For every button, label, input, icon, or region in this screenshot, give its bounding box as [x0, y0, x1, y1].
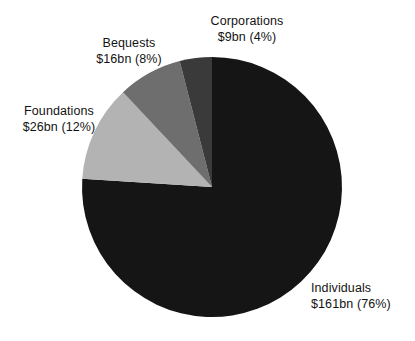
pie-label-bequests-name: Bequests	[74, 36, 184, 52]
pie-label-individuals-name: Individuals	[311, 281, 415, 297]
pie-slice-group	[82, 57, 342, 317]
pie-label-bequests: Bequests $16bn (8%)	[74, 36, 184, 67]
pie-label-foundations: Foundations $26bn (12%)	[4, 104, 114, 135]
pie-label-foundations-name: Foundations	[4, 104, 114, 120]
pie-label-foundations-value: $26bn (12%)	[4, 120, 114, 136]
pie-label-corporations: Corporations $9bn (4%)	[187, 14, 307, 45]
pie-label-corporations-value: $9bn (4%)	[187, 30, 307, 46]
pie-label-individuals-value: $161bn (76%)	[311, 297, 415, 313]
pie-label-individuals: Individuals $161bn (76%)	[311, 281, 415, 312]
pie-label-corporations-name: Corporations	[187, 14, 307, 30]
pie-label-bequests-value: $16bn (8%)	[74, 52, 184, 68]
pie-chart-figure: Corporations $9bn (4%) Bequests $16bn (8…	[0, 0, 415, 341]
